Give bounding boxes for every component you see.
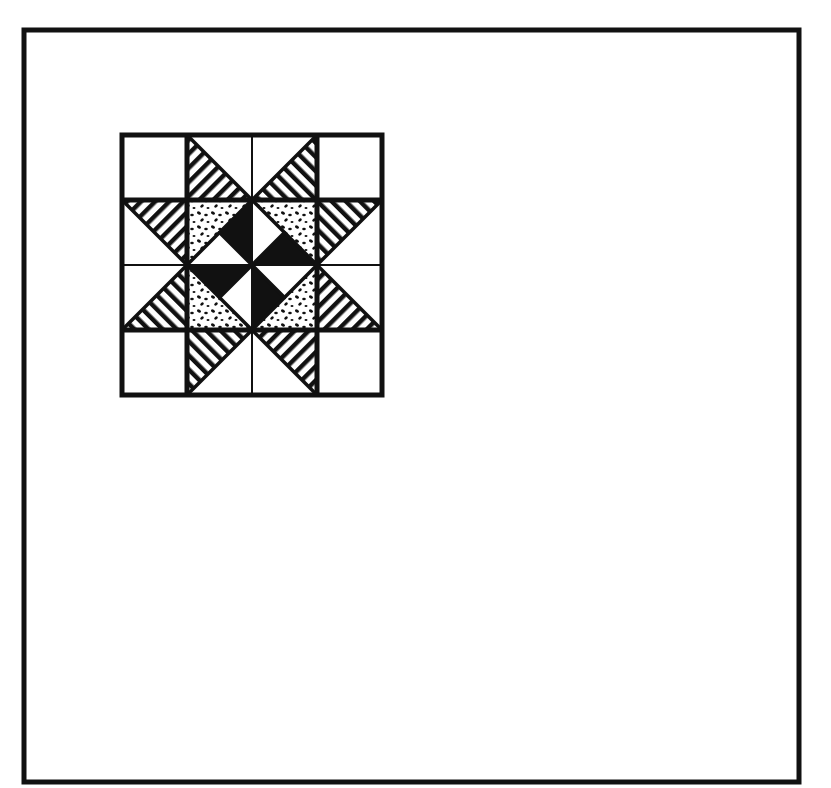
quilt-block bbox=[122, 135, 382, 395]
quilt-diagram bbox=[0, 0, 831, 788]
